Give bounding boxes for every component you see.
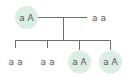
child-4-node: a A (99, 51, 122, 74)
parent-1-node: a A (15, 6, 38, 29)
child-3-genotype: a A (72, 57, 87, 67)
parent-2-node: a a (92, 13, 106, 23)
child-3-node: a A (68, 51, 91, 74)
child-1-node: a a (9, 57, 23, 67)
parent-1-genotype: a A (19, 13, 34, 23)
child-2-genotype: a a (41, 57, 55, 67)
pedigree-diagram: a A a a a a a a a A a A (0, 0, 126, 77)
child-1-genotype: a a (9, 57, 23, 67)
child-2-node: a a (41, 57, 55, 67)
child-4-genotype: a A (103, 57, 118, 67)
parent-2-genotype: a a (92, 13, 106, 23)
